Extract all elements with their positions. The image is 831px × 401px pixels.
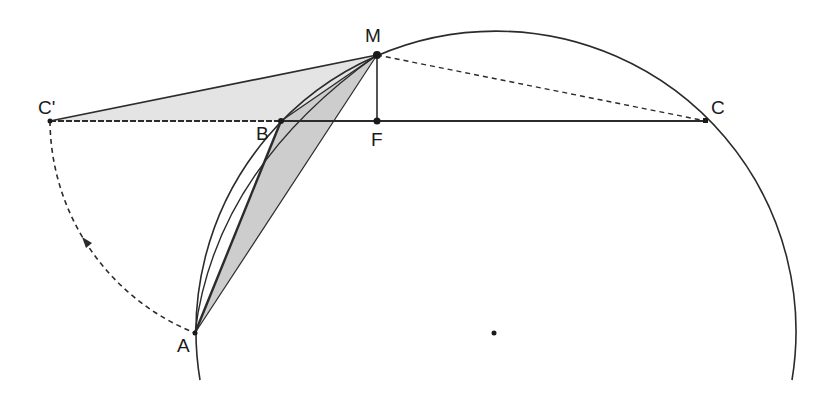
point-cprime	[48, 119, 53, 124]
circle-center-point	[492, 331, 497, 336]
point-f	[374, 118, 381, 125]
point-m	[373, 51, 381, 59]
label-c: C	[711, 98, 725, 117]
point-b	[278, 118, 284, 124]
label-m: M	[365, 26, 381, 45]
rotation-arc-dashed	[50, 121, 195, 333]
label-f: F	[371, 130, 383, 149]
arrow-head-icon	[82, 237, 92, 248]
geometry-diagram: M F B C C' A	[0, 0, 831, 401]
point-c	[703, 118, 708, 123]
label-a: A	[177, 336, 190, 355]
diagram-canvas	[0, 0, 831, 401]
label-b: B	[256, 124, 269, 143]
label-cprime: C'	[38, 98, 55, 117]
point-a	[193, 331, 198, 336]
segment-a-b	[195, 121, 281, 333]
segment-m-c-dashed	[377, 55, 706, 121]
